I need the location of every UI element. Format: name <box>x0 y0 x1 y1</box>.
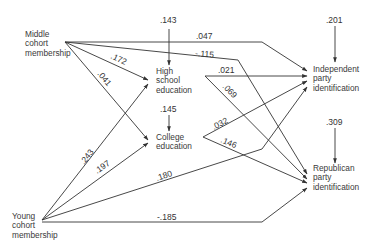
coef-middle-independent: .047 <box>196 31 213 41</box>
coef-middle-high-school: .172 <box>109 51 128 67</box>
node-middle-cohort-line3: membership <box>25 49 71 58</box>
node-college-line2: education <box>156 142 192 151</box>
coef-young-republican: -.185 <box>157 212 177 222</box>
coef-young-high-school: .243 <box>78 147 96 166</box>
residual-high-school: .143 <box>160 15 177 25</box>
coef-young-independent: .180 <box>155 168 174 183</box>
node-high-school-education: High school education <box>156 67 192 95</box>
residual-independent: .201 <box>326 15 343 25</box>
node-independent-line3: identification <box>313 84 359 93</box>
residual-republican: .309 <box>326 117 343 127</box>
path-college-to-republican <box>203 137 307 183</box>
node-middle-cohort: Middle cohort membership <box>25 30 71 58</box>
coef-middle-republican: -.115 <box>195 48 215 60</box>
path-middle-to-republican <box>65 42 307 174</box>
path-middle-to-college <box>65 42 148 140</box>
coef-high-school-independent: .021 <box>218 65 235 75</box>
residual-college: .145 <box>160 104 177 114</box>
coef-high-school-republican: .069 <box>221 81 240 100</box>
coef-college-republican: .146 <box>219 135 238 151</box>
path-young-to-college <box>42 143 148 220</box>
path-young-to-high-school <box>42 84 148 220</box>
coef-middle-college: .041 <box>95 69 113 88</box>
node-republican-line3: identification <box>313 183 359 192</box>
coef-young-college: .197 <box>92 158 112 176</box>
coef-college-independent: .032 <box>210 115 230 132</box>
node-college-education: College education <box>156 133 192 152</box>
node-young-cohort: Young cohort membership <box>12 212 58 240</box>
node-republican-party-id: Republican party identification <box>313 164 359 192</box>
node-high-school-line3: education <box>156 86 192 95</box>
node-young-cohort-line3: membership <box>12 231 58 240</box>
node-independent-party-id: Independent party identification <box>313 65 359 93</box>
